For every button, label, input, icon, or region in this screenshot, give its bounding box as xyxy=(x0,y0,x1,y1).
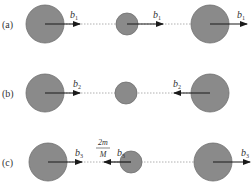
three-body-velocity-diagram: (a)b1b1b1(b)b2b2(c)b3b32mMb3 xyxy=(0,0,252,188)
small-ball xyxy=(115,82,137,104)
velocity-label: b1 xyxy=(70,9,78,21)
velocity-label: b1 xyxy=(237,9,245,21)
velocity-label: b1 xyxy=(153,9,161,21)
row-label: (c) xyxy=(2,157,13,169)
diagram-row-2: (c)b3b32mMb3 xyxy=(2,138,250,181)
diagram-row-0: (a)b1b1b1 xyxy=(2,5,247,43)
velocity-label: b2 xyxy=(173,78,181,90)
row-label: (a) xyxy=(2,19,13,31)
rows-layer: (a)b1b1b1(b)b2b2(c)b3b32mMb3 xyxy=(2,5,250,181)
row-label: (b) xyxy=(2,88,14,100)
velocity-label: b3 xyxy=(117,147,125,159)
velocity-label: b3 xyxy=(75,147,83,159)
velocity-label: b2 xyxy=(73,78,81,90)
velocity-label: b3 xyxy=(241,147,249,159)
mass-ratio-denominator: M xyxy=(99,150,108,159)
mass-ratio-numerator: 2m xyxy=(98,138,108,147)
diagram-row-1: (b)b2b2 xyxy=(2,74,229,112)
